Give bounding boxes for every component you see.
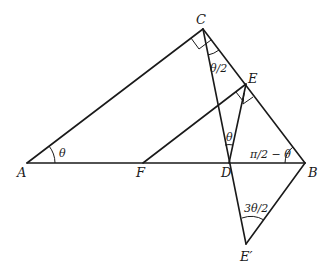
angle-arc-C-half [208,50,219,55]
angle-label-B: π/2 − θ [249,148,291,161]
geometry-diagram: A F D B C E E′ θ θ/2 θ π/2 − θ 3θ/2 [0,0,334,273]
point-label-D: D [220,165,232,180]
angle-arc-E-prime [242,216,264,220]
angle-arc-A [49,146,55,163]
segment-AC [27,29,203,163]
angle-label-A: θ [59,147,66,160]
angle-label-D: θ [226,131,233,144]
right-angle-marker-C [191,38,211,49]
angle-label-E-prime: 3θ/2 [244,202,268,215]
point-label-C: C [196,12,206,27]
point-label-A: A [16,165,26,180]
point-label-F: F [135,165,146,180]
segment-FE [143,84,246,163]
angle-label-C-half: θ/2 [210,62,227,75]
point-label-E: E [247,71,258,86]
point-label-B: B [307,165,318,180]
segment-CB [203,29,305,163]
point-label-E-prime: E′ [239,249,252,264]
